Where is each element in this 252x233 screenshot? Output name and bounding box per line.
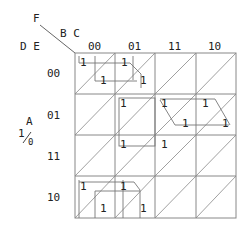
- col-header-01: 01: [128, 41, 141, 52]
- cell-value: 1: [121, 57, 128, 68]
- col-header-00: 00: [88, 41, 101, 52]
- col-header-10: 10: [208, 41, 221, 52]
- cell-value: 1: [120, 98, 127, 109]
- cell-value: 1: [140, 203, 147, 214]
- cell-value: 1: [161, 139, 168, 150]
- cell-value: 1: [202, 98, 209, 109]
- cell-value: 1: [80, 181, 87, 192]
- row-header-01: 01: [47, 110, 60, 121]
- cell-value: 1: [120, 139, 127, 150]
- a-slash: [0, 0, 252, 233]
- cell-value: 1: [222, 118, 229, 129]
- col-header-11: 11: [168, 41, 181, 52]
- cell-value: 1: [182, 118, 189, 129]
- row-header-11: 11: [47, 151, 60, 162]
- cell-value: 1: [80, 57, 87, 68]
- row-header-00: 00: [47, 68, 60, 79]
- row-header-10: 10: [47, 192, 60, 203]
- cell-value: 1: [100, 75, 107, 86]
- cell-value: 1: [100, 203, 107, 214]
- cell-value: 1: [140, 75, 147, 86]
- cell-value: 1: [120, 181, 127, 192]
- cell-value: 1: [161, 98, 168, 109]
